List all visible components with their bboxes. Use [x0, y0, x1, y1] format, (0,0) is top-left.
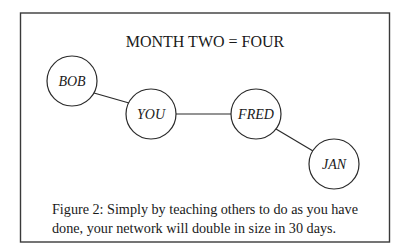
network-diagram: MONTH TWO = FOUR BOB YOU FRED JAN Figure… [0, 0, 410, 250]
node-you-label: YOU [137, 107, 166, 122]
node-bob: BOB [47, 56, 97, 106]
caption-line-1: Figure 2: Simply by teaching others to d… [52, 201, 358, 217]
node-bob-label: BOB [58, 74, 86, 89]
caption-line-2: done, your network will double in size i… [52, 220, 336, 236]
node-fred-label: FRED [237, 107, 274, 122]
node-fred: FRED [231, 89, 281, 139]
diagram-title: MONTH TWO = FOUR [126, 33, 285, 50]
node-you: YOU [126, 89, 176, 139]
node-jan-label: JAN [322, 157, 347, 172]
node-jan: JAN [309, 139, 359, 189]
